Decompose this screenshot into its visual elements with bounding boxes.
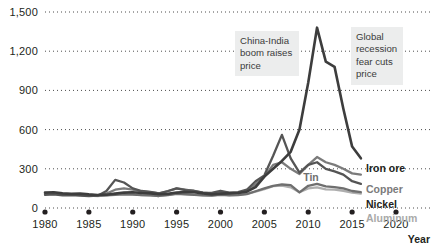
x-axis-tick-dot bbox=[218, 209, 223, 214]
y-axis-labels-group: 03006009001,2001,500 bbox=[9, 6, 38, 214]
x-axis-tick-dot bbox=[262, 209, 267, 214]
series-label-iron-ore: Iron ore bbox=[366, 162, 405, 174]
x-axis-tick-dot bbox=[306, 209, 311, 214]
y-axis-label: 300 bbox=[19, 163, 38, 175]
series-label-copper: Copper bbox=[366, 183, 403, 195]
x-axis-label: 2000 bbox=[208, 218, 233, 230]
x-axis-tick-dot bbox=[86, 209, 91, 214]
series-end-labels-group: Iron oreCopperNickelAluminum bbox=[366, 162, 417, 224]
x-axis-title: Year bbox=[408, 233, 430, 245]
commodity-price-chart: 03006009001,2001,500 1980198519901995200… bbox=[0, 0, 435, 247]
x-axis-labels-group: 198019851990199520002005201020152020 bbox=[32, 218, 408, 230]
series-label-nickel: Nickel bbox=[366, 198, 397, 210]
series-line-iron-ore bbox=[45, 28, 361, 195]
y-axis-label: 1,200 bbox=[9, 45, 38, 57]
x-axis-label: 1985 bbox=[76, 218, 101, 230]
x-axis-label: 1980 bbox=[32, 218, 57, 230]
x-axis-label: 1995 bbox=[164, 218, 189, 230]
y-axis-label: 600 bbox=[19, 124, 38, 136]
y-axis-label: 900 bbox=[19, 84, 38, 96]
x-axis-label: 2010 bbox=[296, 218, 321, 230]
x-axis-label: 1990 bbox=[120, 218, 145, 230]
y-axis-label: 0 bbox=[32, 202, 38, 214]
x-axis-tick-dot bbox=[42, 209, 47, 214]
x-axis-tick-dot bbox=[130, 209, 135, 214]
x-axis-label: 2005 bbox=[252, 218, 277, 230]
tin-inline-label: Tin bbox=[303, 171, 319, 183]
x-axis-tick-dot bbox=[174, 209, 179, 214]
series-label-aluminum: Aluminum bbox=[366, 212, 417, 224]
x-axis-tick-dot bbox=[350, 209, 355, 214]
annotation-china-india: China-India boom raises price bbox=[235, 31, 299, 76]
annotation-global-recession: Global recession fear cuts price bbox=[351, 27, 403, 85]
y-axis-label: 1,500 bbox=[9, 6, 38, 18]
x-axis-tick-dots-group bbox=[42, 209, 398, 214]
x-axis-label: 2015 bbox=[339, 218, 364, 230]
